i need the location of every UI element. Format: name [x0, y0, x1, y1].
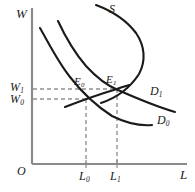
guide-lines-group: [33, 89, 117, 164]
y-tick-label-w0: W0: [10, 93, 24, 106]
x-tick-label-l1: L1: [110, 170, 121, 183]
x-tick-l0-base: L: [79, 169, 86, 183]
y-axis-label: W: [16, 7, 27, 20]
demand-d0-base: D: [157, 113, 166, 127]
supply-curve-label: S: [109, 3, 115, 15]
x-axis-label: L: [180, 168, 187, 181]
demand-d1-base: D: [150, 84, 159, 98]
x-tick-l1-base: L: [110, 169, 117, 183]
origin-label: O: [17, 165, 26, 177]
y-tick-w0-sub: 0: [20, 98, 24, 107]
equilibrium-e0-base: E: [74, 75, 81, 87]
x-tick-l1-sub: 1: [117, 175, 121, 184]
demand-d1-sub: 1: [159, 90, 163, 99]
x-tick-l0-sub: 0: [86, 175, 90, 184]
equilibrium-label-e1: E1: [106, 74, 116, 87]
equilibrium-label-e0: E0: [74, 76, 84, 89]
demand-d0-sub: 0: [166, 119, 170, 128]
demand-d0-label: D0: [157, 114, 170, 127]
equilibrium-e0-sub: 0: [81, 81, 85, 88]
equilibrium-e1-sub: 1: [113, 79, 117, 86]
diagram-canvas: [0, 0, 195, 192]
equilibrium-e1-base: E: [106, 73, 113, 85]
x-tick-label-l0: L0: [79, 170, 90, 183]
y-tick-w0-base: W: [10, 92, 20, 106]
labor-market-diagram: W L O W1 W0 L0 L1 S D1 D0 E0 E1: [0, 0, 195, 192]
demand-d1-label: D1: [150, 85, 163, 98]
